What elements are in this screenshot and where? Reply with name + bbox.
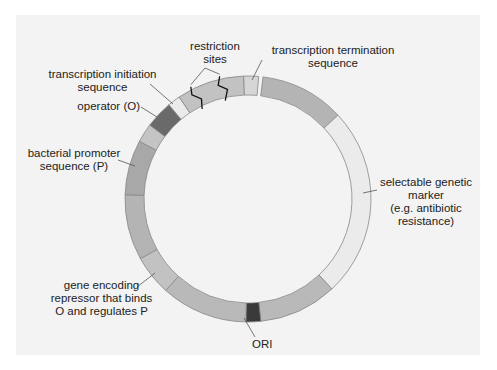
segment-transcription-termination: [244, 76, 259, 95]
label-restriction-sites: restriction sites: [175, 40, 255, 66]
leader-operator: [141, 107, 157, 117]
segment-bacterial-promoter: [125, 141, 156, 195]
label-operator: operator (O): [60, 100, 140, 113]
label-bacterial-promoter: bacterial promoter sequence (P): [24, 147, 124, 173]
label-transcription-initiation: transcription initiation sequence: [40, 68, 165, 94]
leader-restriction-2: [205, 68, 220, 74]
segment-ori: [246, 302, 261, 322]
segment-selectable-genetic-marker: [319, 115, 371, 289]
label-selectable-marker: selectable genetic marker (e.g. antibiot…: [376, 176, 476, 228]
label-ori: ORI: [252, 338, 272, 351]
segment-bottom-right-region: [259, 275, 332, 321]
label-transcription-termination: transcription termination sequence: [258, 44, 408, 70]
segment-bottom-left-region: [166, 276, 246, 322]
leader-restriction-1: [191, 68, 205, 85]
segment-left-region: [125, 195, 157, 259]
segment-cloning-region: [179, 76, 244, 113]
label-repressor-gene: gene encoding repressor that binds O and…: [44, 279, 159, 318]
segment-region-after-termination: [261, 77, 338, 128]
